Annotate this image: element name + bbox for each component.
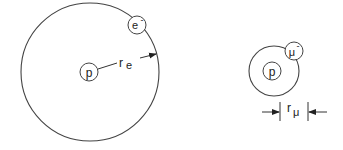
radius-arrow-electron [140, 54, 156, 58]
electron-label: e [132, 19, 138, 31]
radius-label-muon: r [287, 101, 291, 115]
muon-charge: - [297, 41, 300, 51]
radius-subscript-electron: e [126, 59, 132, 71]
atom-comparison-diagram: p e - r e p μ - r μ [0, 0, 343, 150]
electron-charge: - [141, 15, 144, 25]
muon-label: μ [289, 46, 295, 58]
radius-label-electron: r [119, 56, 123, 70]
muonic-atom: p μ - r μ [249, 41, 327, 121]
radius-line-electron [98, 63, 117, 69]
hydrogen-atom: p e - r e [21, 3, 159, 141]
radius-subscript-muon: μ [293, 106, 299, 118]
proton-label: p [86, 66, 93, 80]
proton-label-muonic: p [269, 65, 276, 79]
